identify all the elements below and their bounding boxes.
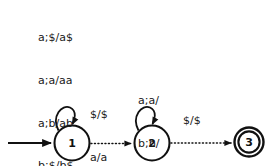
self-loop-1-transition-labels: a;$/a$ a;a/aa a;b/ab b;$/b$ b;a/ba b;b/b… bbox=[38, 3, 73, 166]
transition-label: a;b/ab bbox=[38, 117, 73, 131]
transition-label: $/$ bbox=[90, 108, 108, 122]
transition-label: a;$/a$ bbox=[38, 31, 73, 45]
state-3-label: 3 bbox=[245, 136, 253, 149]
diagram-canvas: 1 2 3 a;$/a$ a;a/aa a;b/ab b;$/b$ b;a/ba… bbox=[0, 0, 280, 166]
self-loop-1-output-labels: $/$ a/a b/b bbox=[90, 80, 108, 166]
transition-label: b;$/b$ bbox=[38, 159, 73, 166]
transition-label: a;a/ bbox=[138, 94, 159, 108]
state-node-3[interactable]: 3 bbox=[235, 128, 264, 157]
edge-2-to-3-label: $/$ bbox=[183, 114, 201, 128]
transition-label: b;b/ bbox=[138, 137, 159, 151]
self-loop-2-transition-labels: a;a/ b;b/ bbox=[138, 66, 159, 166]
transition-label: a/a bbox=[90, 151, 108, 165]
transition-label: a;a/aa bbox=[38, 74, 73, 88]
